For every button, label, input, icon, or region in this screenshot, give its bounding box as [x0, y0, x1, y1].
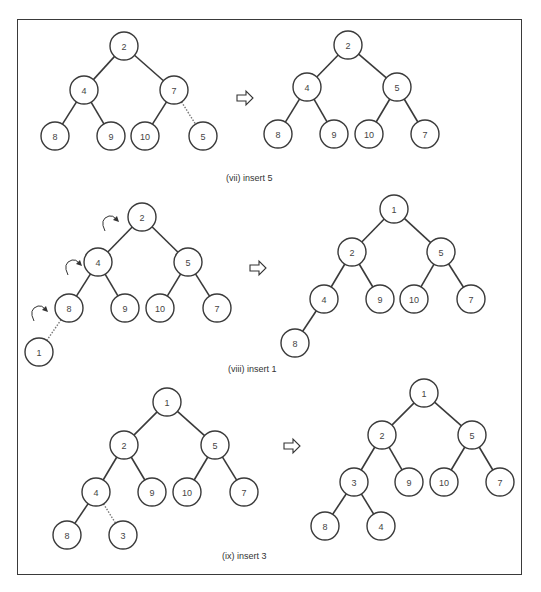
- tree-edge: [131, 457, 145, 480]
- node-label: 9: [331, 130, 336, 140]
- tree-edge: [449, 264, 464, 287]
- node-label: 5: [438, 248, 443, 258]
- heap-node: 10: [430, 468, 458, 496]
- heap-diagram: 24789105 24589107 (vii) insert 5 2458910…: [0, 0, 541, 592]
- heap-node: 2: [338, 238, 366, 266]
- node-label: 8: [66, 304, 71, 314]
- tree-after: 24589107: [264, 31, 439, 148]
- tree-edge: [389, 447, 402, 470]
- node-label: 9: [377, 295, 382, 305]
- tree-edge: [134, 412, 157, 435]
- tree-edge: [135, 55, 164, 81]
- node-label: 5: [469, 431, 474, 441]
- node-label: 8: [292, 339, 297, 349]
- heap-node: 1: [380, 195, 408, 223]
- node-label: 10: [439, 478, 449, 488]
- tree-edge: [105, 274, 118, 296]
- node-label: 4: [93, 488, 98, 498]
- panel-insert-3: 1254910783 1253910784 (ix) insert 3: [53, 379, 514, 561]
- tree-edge: [314, 99, 327, 122]
- node-label: 5: [394, 83, 399, 93]
- tree-edge: [361, 494, 373, 514]
- node-label: 10: [364, 130, 374, 140]
- node-label: 5: [212, 441, 217, 451]
- tree-edge: [222, 457, 236, 480]
- heap-node: 2: [110, 32, 138, 60]
- heap-node: 10: [173, 478, 201, 506]
- tree-edge: [376, 99, 390, 122]
- heap-node: 5: [427, 238, 455, 266]
- pending-edge: [47, 320, 61, 341]
- heap-node: 5: [174, 248, 202, 276]
- tree-edge: [167, 274, 180, 296]
- tree-edge: [479, 447, 493, 470]
- tree-edge: [285, 99, 299, 122]
- heap-node: 8: [55, 294, 83, 322]
- node-label: 7: [468, 295, 473, 305]
- node-label: 7: [422, 130, 427, 140]
- tree-edge: [76, 274, 90, 296]
- tree-edge: [362, 219, 384, 242]
- tree-edge: [361, 447, 375, 470]
- heap-node: 2: [368, 421, 396, 449]
- node-label: 10: [140, 132, 150, 142]
- transition-arrow-icon: [250, 261, 266, 275]
- swap-up-arrow-icon: [32, 306, 48, 321]
- node-label: 5: [185, 258, 190, 268]
- tree-edge: [152, 102, 166, 124]
- heap-node: 4: [84, 248, 112, 276]
- heap-node: 2: [334, 31, 362, 59]
- tree-edge: [152, 227, 178, 252]
- node-label: 1: [391, 205, 396, 215]
- node-label: 3: [351, 478, 356, 488]
- panel-caption: (ix) insert 3: [222, 551, 267, 561]
- node-label: 10: [155, 304, 165, 314]
- tree-edge: [194, 457, 208, 480]
- node-label: 4: [304, 83, 309, 93]
- heap-node: 8: [311, 512, 339, 540]
- heap-node: 4: [310, 285, 338, 313]
- tree-edge: [108, 227, 132, 252]
- heap-node: 1: [25, 338, 53, 366]
- tree-edge: [404, 218, 430, 242]
- node-label: 9: [122, 304, 127, 314]
- tree-edge: [317, 55, 338, 77]
- node-label: 2: [345, 41, 350, 51]
- node-label: 2: [379, 431, 384, 441]
- tree-edge: [421, 264, 434, 287]
- panel-caption: (viii) insert 1: [228, 364, 277, 374]
- node-label: 2: [121, 441, 126, 451]
- heap-node: 2: [110, 431, 138, 459]
- heap-node: 4: [70, 76, 98, 104]
- heap-node: 5: [189, 122, 217, 150]
- tree-before: 1254910783: [53, 388, 258, 549]
- heap-node: 8: [264, 120, 292, 148]
- node-label: 9: [149, 488, 154, 498]
- pending-edge: [181, 102, 195, 124]
- heap-node: 7: [203, 294, 231, 322]
- swap-up-arrow-icon: [66, 260, 82, 275]
- tree-edge: [392, 403, 414, 425]
- tree-edge: [451, 447, 465, 470]
- heap-node: 7: [411, 120, 439, 148]
- node-label: 2: [349, 248, 354, 258]
- node-label: 10: [409, 295, 419, 305]
- node-label: 3: [120, 531, 125, 541]
- heap-node: 3: [340, 468, 368, 496]
- heap-node: 2: [128, 203, 156, 231]
- heap-node: 10: [400, 285, 428, 313]
- heap-node: 7: [457, 285, 485, 313]
- node-label: 4: [95, 258, 100, 268]
- panel-caption: (vii) insert 5: [226, 173, 273, 183]
- panel-insert-5: 24789105 24589107 (vii) insert 5: [41, 31, 439, 183]
- node-label: 8: [52, 132, 57, 142]
- node-label: 7: [241, 488, 246, 498]
- node-label: 5: [200, 132, 205, 142]
- heap-node: 9: [111, 294, 139, 322]
- node-label: 9: [108, 132, 113, 142]
- heap-node: 7: [230, 478, 258, 506]
- node-label: 1: [421, 389, 426, 399]
- tree-before: 24789105: [41, 32, 217, 150]
- tree-before: 245891071: [25, 203, 231, 366]
- swap-up-arrow-icon: [103, 216, 119, 231]
